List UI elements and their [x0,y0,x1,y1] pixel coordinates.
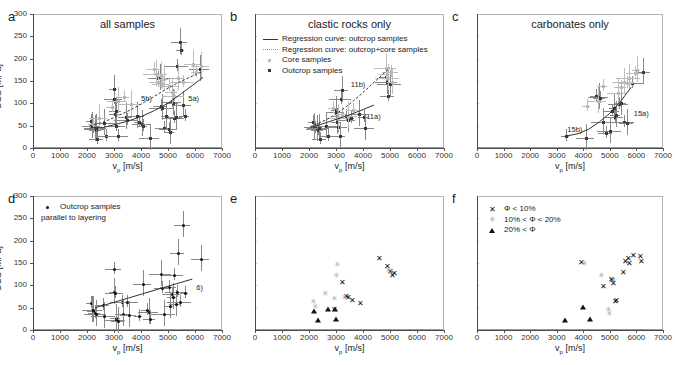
legend-label-dotted-line: Regression curve: outcrop+core samples [282,45,428,56]
legend-item-triangle-marker: 20% < Φ [485,225,561,236]
legend-item-outcrop-marker: Outcrop samples [263,66,428,77]
regression-11a [310,105,373,127]
legend-item-asterisk-marker: ✳10% < Φ < 20% [485,215,561,226]
legend-key-triangle-marker [485,227,500,234]
regression-6 [95,279,192,308]
legend-item-core-marker: Core samples [263,55,428,66]
legend-key-core-marker [263,57,278,64]
x-marker-icon: ✕ [489,206,496,213]
legend-clastic: Regression curve: outcrop samplesRegress… [263,34,428,76]
curve-tag-a-1: 5b) [141,95,152,103]
legend-label-x-marker: Φ < 10% [504,204,536,215]
legend-outcrop-parallel: Outcrop samplesparallel to layering [41,202,120,223]
legend-item-diamond: Outcrop samples [41,202,120,213]
legend-label-triangle-marker: 20% < Φ [504,225,536,236]
legend-label-asterisk-marker: 10% < Φ < 20% [504,215,561,226]
legend-porosity: ✕Φ < 10%✳10% < Φ < 20%20% < Φ [485,204,561,236]
curve-tag-c-5: 15b) [567,126,582,134]
curve-tag-c-4: 15a) [634,110,649,118]
legend-label-solid-line: Regression curve: outcrop samples [282,34,407,45]
legend-item-x-marker: ✕Φ < 10% [485,204,561,215]
curve-tag-a-0: 5a) [188,95,199,103]
legend-key-dotted-line [263,46,278,53]
asterisk-marker-icon: ✳ [489,216,496,223]
curve-tag-b-3: 11b) [351,81,365,89]
legend-label-outcrop-parallel-2: parallel to layering [41,213,106,224]
legend-label-outcrop-parallel-1: Outcrop samples [60,202,120,213]
triangle-marker-icon [489,228,495,233]
legend-key-x-marker: ✕ [485,206,500,213]
legend-item-diamond-line2: parallel to layering [41,213,120,224]
core-marker-icon [268,59,271,62]
curve-tag-b-2: 11a) [366,113,380,121]
outcrop-marker-icon [268,69,271,72]
legend-key-outcrop-marker [263,67,278,74]
legend-label-core-marker: Core samples [282,55,331,66]
legend-key-asterisk-marker: ✳ [485,216,500,223]
diamond-marker-icon [46,206,49,209]
legend-label-outcrop-marker: Outcrop samples [282,66,342,77]
legend-key-diamond [41,204,56,211]
solid-line-icon [263,39,278,40]
legend-key-solid-line [263,36,278,43]
legend-item-solid-line: Regression curve: outcrop samples [263,34,428,45]
curve-tag-d-6: 6) [196,284,203,292]
legend-item-dotted-line: Regression curve: outcrop+core samples [263,45,428,56]
dotted-line-icon [263,49,278,50]
